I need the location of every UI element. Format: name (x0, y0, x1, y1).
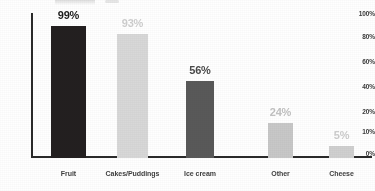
bar-value-label-fruit: 99% (51, 9, 86, 21)
category-label-cheese: Cheese (305, 169, 375, 178)
bar-value-label-cheese: 5% (325, 129, 358, 141)
bar-value-label-other: 24% (262, 106, 299, 118)
y-axis-tick-40: 40% (346, 83, 375, 90)
bar-cakes-puddings (117, 34, 148, 158)
bar-chart: 100% 80% 60% 40% 20% 10% 0% 99% Fruit 93… (0, 0, 375, 191)
bar-value-label-cakes-puddings: 93% (112, 17, 153, 29)
bar-other (268, 123, 293, 158)
bar-ice-cream (186, 81, 214, 158)
y-axis-tick-20: 20% (346, 108, 375, 115)
bar-fruit (51, 26, 86, 158)
y-axis-tick-60: 60% (346, 58, 375, 65)
category-label-ice-cream: Ice cream (159, 169, 241, 178)
y-axis-line (31, 13, 33, 158)
bar-value-label-ice-cream: 56% (181, 64, 219, 76)
y-axis-tick-100: 100% (346, 10, 375, 17)
bar-cheese (329, 146, 354, 158)
y-axis-tick-80: 80% (346, 33, 375, 40)
